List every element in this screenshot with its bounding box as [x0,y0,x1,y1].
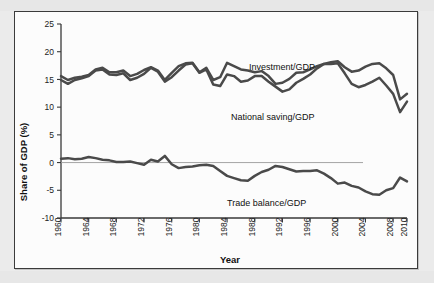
y-tick-label: 10 [45,102,55,112]
x-tick-label: 1972 [136,217,146,236]
x-tick-label: 1980 [191,217,201,236]
y-axis-tick-labels: 2520151050-5-10 [42,19,55,223]
y-axis-title: Share of GDP (%) [18,123,29,201]
y-tick-label: 25 [45,19,55,29]
share-of-gdp-line-chart: 2520151050-5-10 196019641968197219761980… [15,12,419,270]
figure-frame: 2520151050-5-10 196019641968197219761980… [14,11,418,269]
x-tick-label: 1996 [302,217,312,236]
x-tick-label: 1984 [219,217,229,236]
series-line-investment-gdp [61,61,407,99]
chart-series-group [61,61,407,195]
y-tick-label: 5 [49,130,54,140]
x-axis-title: Year [220,254,240,265]
scan-texture-top [0,0,434,11]
y-tick-label: -5 [46,185,54,195]
x-tick-label: 1992 [274,217,284,236]
x-tick-label: 2010 [399,217,409,236]
scan-texture-bottom [0,271,434,283]
x-tick-label: 2008 [385,217,395,236]
trade-balance-label: Trade balance/GDP [227,198,306,208]
x-tick-label: 1968 [108,217,118,236]
x-tick-label: 2004 [357,217,367,236]
y-tick-label: 20 [45,47,55,57]
x-tick-label: 1988 [247,217,257,236]
chart-plot-area: 2520151050-5-10 196019641968197219761980… [15,12,419,270]
x-axis-tick-labels: 1960196419681972197619801984198819921996… [53,217,409,236]
x-tick-label: 1964 [81,217,91,236]
x-tick-label: 1976 [164,217,174,236]
x-tick-label: 2000 [330,217,340,236]
y-tick-label: 0 [49,158,54,168]
y-tick-label: 15 [45,75,55,85]
x-tick-label: 1960 [53,217,63,236]
figure-page: 2520151050-5-10 196019641968197219761980… [0,0,434,283]
investment-label: Investment/GDP [249,62,315,72]
series-line-trade-balance-gdp [61,156,407,195]
chart-axes [57,24,407,223]
national-saving-label: National saving/GDP [231,112,315,122]
